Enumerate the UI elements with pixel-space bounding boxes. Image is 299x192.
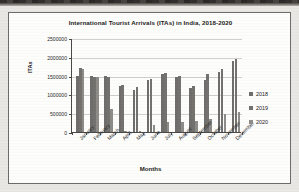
y-tick-mark: [69, 77, 72, 78]
bar-group: [90, 38, 98, 132]
bar-group: [119, 38, 127, 132]
x-tick-mark: [185, 132, 186, 135]
bar-2020-november: [224, 114, 227, 132]
y-tick-mark: [69, 39, 72, 40]
y-tick-label: 2500000: [47, 36, 67, 42]
y-tick-label: 2000000: [47, 55, 67, 61]
x-tick-mark: [143, 132, 144, 135]
y-tick-label: 1000000: [47, 92, 67, 98]
bar-2020-march: [110, 109, 113, 132]
legend-label: 2018: [256, 91, 268, 97]
y-tick-label: 0: [64, 130, 67, 136]
chart-legend: 201820192020: [249, 91, 268, 133]
bar-group: [161, 38, 169, 132]
bar-group: [133, 38, 141, 132]
y-tick-mark: [69, 95, 72, 96]
chart-figure: International Tourist Arrivals (ITAs) in…: [8, 12, 291, 184]
x-tick-mark: [129, 132, 130, 135]
legend-swatch-icon: [249, 106, 253, 110]
bar-group: [104, 38, 112, 132]
legend-item-2018[interactable]: 2018: [249, 91, 268, 97]
x-tick-mark: [242, 132, 243, 135]
legend-label: 2020: [256, 119, 268, 125]
x-tick-mark: [115, 132, 116, 135]
bar-group: [175, 38, 183, 132]
bar-group: [189, 38, 197, 132]
x-tick-mark: [100, 132, 101, 135]
x-tick-mark: [72, 132, 73, 135]
x-tick-label-july: July: [163, 130, 174, 141]
x-axis-label: Months: [9, 165, 292, 172]
legend-swatch-icon: [249, 92, 253, 96]
bar-group: [147, 38, 155, 132]
x-tick-mark: [200, 132, 201, 135]
scan-artifact-band: [0, 0, 299, 6]
bar-group: [218, 38, 226, 132]
x-tick-mark: [157, 132, 158, 135]
bar-2019-may: [136, 87, 139, 132]
plot-area: JanuaryFebruaryMarchAprilMayJuneJulyAugu…: [71, 39, 241, 133]
x-tick-mark: [214, 132, 215, 135]
y-tick-label: 1500000: [47, 74, 67, 80]
legend-swatch-icon: [249, 120, 253, 124]
legend-label: 2019: [256, 105, 268, 111]
bar-group: [232, 38, 240, 132]
bar-2019-april: [121, 85, 124, 132]
x-tick-mark: [86, 132, 87, 135]
y-tick-mark: [69, 114, 72, 115]
legend-item-2019[interactable]: 2019: [249, 105, 268, 111]
y-tick-label: 500000: [50, 111, 67, 117]
y-tick-mark: [69, 58, 72, 59]
bar-group: [204, 38, 212, 132]
bar-2020-january: [82, 69, 85, 132]
x-tick-mark: [171, 132, 172, 135]
y-axis-label: ITAs: [27, 61, 33, 73]
bar-2020-february: [96, 77, 99, 132]
bar-group: [76, 38, 84, 132]
legend-item-2020[interactable]: 2020: [249, 119, 268, 125]
bar-2019-june: [150, 79, 153, 132]
x-tick-mark: [228, 132, 229, 135]
